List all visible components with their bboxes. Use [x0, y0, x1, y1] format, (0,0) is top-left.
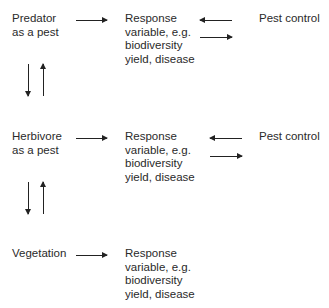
arrow-left-icon	[200, 20, 232, 21]
response-node-1: Response variable, e.g. biodiversity yie…	[125, 12, 195, 66]
arrow-right-icon	[210, 156, 242, 157]
pest-control-node-2: Pest control	[259, 130, 320, 144]
predator-node: Predator as a pest	[12, 12, 59, 39]
arrow-up-icon	[43, 182, 44, 214]
vegetation-node: Vegetation	[12, 247, 66, 261]
arrow-right-icon	[76, 255, 107, 256]
arrow-right-icon	[200, 37, 232, 38]
arrow-down-icon	[28, 182, 29, 214]
arrow-right-icon	[76, 20, 107, 21]
pest-control-node-1: Pest control	[259, 12, 320, 26]
response-node-3: Response variable, e.g. biodiversity yie…	[125, 247, 195, 301]
arrow-up-icon	[43, 64, 44, 96]
arrow-left-icon	[210, 138, 242, 139]
herbivore-node: Herbivore as a pest	[12, 130, 62, 157]
response-node-2: Response variable, e.g. biodiversity yie…	[125, 130, 195, 184]
arrow-down-icon	[28, 64, 29, 96]
arrow-right-icon	[76, 138, 107, 139]
